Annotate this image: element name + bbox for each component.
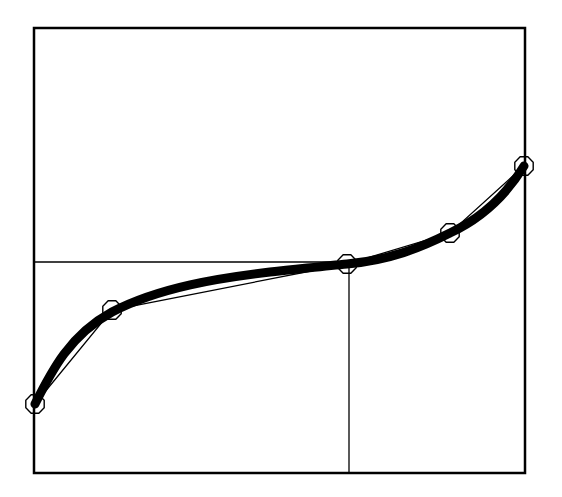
curve-diagram (0, 0, 562, 497)
diagram-frame (34, 28, 525, 473)
control-polygon (35, 166, 524, 404)
control-point-markers (26, 157, 533, 413)
interpolated-curve (35, 166, 524, 404)
diagram-canvas (0, 0, 562, 497)
